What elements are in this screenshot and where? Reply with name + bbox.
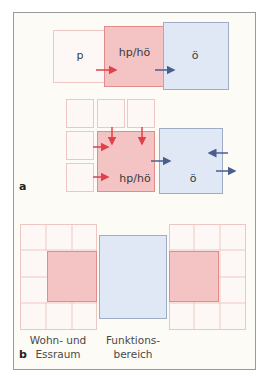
grid-and-arrows-overlay — [0, 0, 265, 380]
panel-b-label: b — [19, 348, 27, 361]
caption-line: bereich — [100, 347, 166, 361]
caption-line: Funktions- — [100, 333, 166, 347]
caption-line: Wohn- und — [28, 333, 88, 347]
caption-line: Essraum — [28, 347, 88, 361]
living-dining-caption: Wohn- und Essraum — [28, 333, 88, 361]
function-area-caption: Funktions- bereich — [100, 333, 166, 361]
